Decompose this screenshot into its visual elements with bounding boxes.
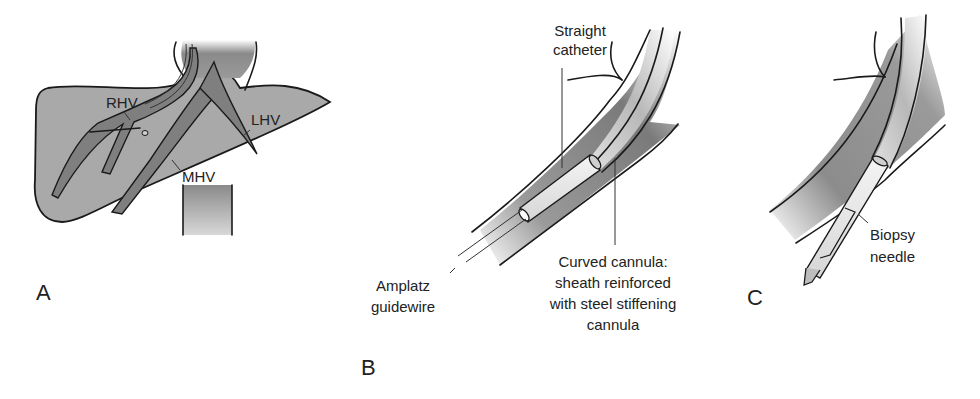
label-straight-catheter-2: catheter — [553, 41, 607, 58]
panel-c: Biopsy needle C — [747, 15, 945, 310]
ivc-lower — [183, 185, 232, 235]
panel-a: RHV MHV LHV A — [35, 40, 330, 305]
label-cannula-1: Curved cannula: — [558, 253, 667, 270]
label-cannula-3: with steel stiffening — [549, 295, 676, 312]
panel-b: Straight catheter Amplatz guidewire Curv… — [361, 22, 680, 380]
label-cannula-2: sheath reinforced — [555, 274, 671, 291]
label-biopsy-1: Biopsy — [870, 226, 916, 243]
panel-label-b: B — [361, 355, 376, 380]
label-lhv: LHV — [251, 111, 280, 128]
label-cannula-4: cannula — [587, 316, 640, 333]
leader-guidewire — [450, 268, 455, 273]
catheter-tip — [142, 131, 148, 136]
label-straight-catheter-1: Straight — [554, 22, 607, 39]
label-rhv: RHV — [106, 94, 138, 111]
diagram-canvas: RHV MHV LHV A Straight cathete — [0, 0, 980, 399]
leader-biopsy-needle — [858, 214, 868, 223]
label-amplatz-2: guidewire — [371, 298, 435, 315]
label-biopsy-2: needle — [870, 248, 915, 265]
branch-vessel — [611, 42, 622, 80]
branch-vessel — [568, 75, 622, 80]
label-amplatz-1: Amplatz — [376, 277, 430, 294]
label-mhv: MHV — [182, 168, 215, 185]
panel-label-a: A — [36, 280, 51, 305]
panel-label-c: C — [747, 285, 763, 310]
